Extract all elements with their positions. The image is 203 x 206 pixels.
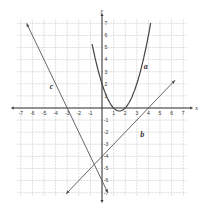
svg-text:7: 7	[105, 20, 108, 26]
coordinate-plane: -7-6-5-4-3-2-112345677654321-1-2-3-4-5-6…	[0, 0, 203, 206]
svg-text:3: 3	[105, 69, 108, 75]
y-axis-label: y	[100, 8, 104, 14]
svg-text:-2: -2	[77, 110, 82, 116]
svg-text:3: 3	[135, 110, 138, 116]
svg-text:-6: -6	[30, 110, 35, 116]
line-label-c: c	[50, 82, 54, 91]
x-axis-label: x	[194, 105, 198, 111]
svg-text:-6: -6	[104, 177, 109, 183]
svg-text:2: 2	[105, 81, 108, 87]
svg-text:4: 4	[147, 110, 150, 116]
svg-text:5: 5	[105, 44, 108, 50]
svg-text:-2: -2	[104, 129, 109, 135]
svg-text:-1: -1	[104, 117, 109, 123]
svg-text:1: 1	[112, 110, 115, 116]
svg-text:6: 6	[105, 32, 108, 38]
svg-text:-4: -4	[53, 110, 58, 116]
svg-text:-1: -1	[88, 110, 93, 116]
svg-text:6: 6	[170, 110, 173, 116]
line-label-b: b	[140, 130, 144, 139]
svg-text:4: 4	[105, 56, 108, 62]
svg-text:7: 7	[182, 110, 185, 116]
svg-text:-5: -5	[42, 110, 47, 116]
svg-text:-7: -7	[19, 110, 24, 116]
svg-text:-3: -3	[104, 141, 109, 147]
svg-text:-5: -5	[104, 165, 109, 171]
axes	[11, 13, 193, 203]
svg-text:2: 2	[124, 110, 127, 116]
svg-text:5: 5	[159, 110, 162, 116]
curve-label-a: a	[144, 62, 148, 71]
